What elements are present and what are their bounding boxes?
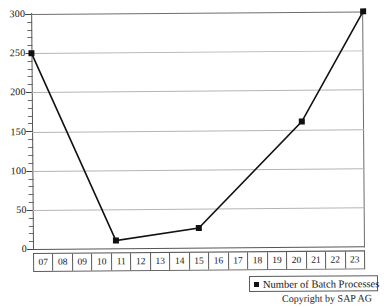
x-axis-label-strip: 07 08 09 10 11 12 13 14 15 16 17 18 19 2…: [33, 250, 365, 272]
y-axis-label-100: 100: [0, 166, 26, 176]
data-point-11: [113, 238, 119, 244]
x-axis-label-07: 07: [34, 254, 54, 271]
y-axis-label-50: 50: [1, 205, 27, 215]
y-axis-labels: 300 250 200 150 100 50 0: [0, 0, 27, 307]
chart-plot-block: 300 250 200 150 100 50 0: [0, 0, 388, 307]
series-number-of-batch-processes: [31, 11, 365, 249]
x-axis-label-18: 18: [248, 252, 268, 269]
y-axis-label-0: 0: [1, 244, 27, 254]
x-axis-label-14: 14: [170, 253, 190, 270]
x-axis-label-20: 20: [287, 252, 307, 269]
x-axis-label-12: 12: [131, 253, 151, 270]
y-axis-label-250: 250: [0, 48, 25, 58]
x-axis-label-16: 16: [209, 252, 229, 269]
x-axis-label-10: 10: [92, 253, 112, 270]
x-axis-label-17: 17: [229, 252, 249, 269]
x-axis-label-08: 08: [53, 254, 73, 271]
legend-label: Number of Batch Processes: [263, 278, 379, 290]
legend-marker-icon: [254, 281, 259, 286]
series-line: [31, 11, 365, 241]
y-axis-label-200: 200: [0, 87, 26, 97]
y-axis-label-300: 300: [0, 9, 25, 19]
chart-legend: Number of Batch Processes: [249, 275, 378, 292]
x-axis-label-09: 09: [73, 254, 93, 271]
x-axis-label-23: 23: [346, 251, 365, 268]
data-point-15: [196, 225, 202, 231]
data-point-23: [360, 8, 366, 14]
x-axis-label-15: 15: [190, 253, 210, 270]
x-axis-label-21: 21: [307, 252, 327, 269]
chart-figure: 300 250 200 150 100 50 0: [0, 0, 388, 307]
data-point-20: [299, 119, 305, 125]
copyright-note: Copyright by SAP AG: [282, 292, 372, 304]
x-axis-label-11: 11: [112, 253, 132, 270]
x-axis-label-19: 19: [268, 252, 288, 269]
x-axis-label-13: 13: [151, 253, 171, 270]
data-point-07: [28, 50, 34, 56]
x-axis-label-22: 22: [326, 252, 346, 269]
y-axis-label-150: 150: [0, 127, 26, 137]
